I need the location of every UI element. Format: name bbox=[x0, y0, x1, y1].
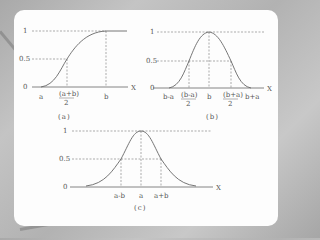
x-tick-b: b bbox=[104, 93, 109, 101]
y-tick-1: 1 bbox=[23, 27, 27, 35]
x-tick-right-mid-num: (b+a) bbox=[223, 91, 243, 99]
pi-curve bbox=[169, 32, 251, 88]
y-tick-05: 0.5 bbox=[19, 55, 30, 63]
x-tick-b: b bbox=[207, 93, 212, 101]
caption-a: (a) bbox=[58, 113, 71, 121]
y-tick-05: 0.5 bbox=[146, 57, 157, 65]
x-tick-left-mid-num: (b-a) bbox=[181, 91, 198, 99]
panel-a: 1 0.5 0 X a (a+b) 2 b (a) bbox=[19, 27, 136, 121]
x-axis-label: X bbox=[216, 184, 221, 192]
x-axis-label: X bbox=[131, 84, 136, 92]
panel-c: 1 0.5 0 X a-b a a+b (c) bbox=[59, 127, 221, 212]
membership-functions-diagram: 1 0.5 0 X a (a+b) 2 b (a) 1 0.5 0 X b-a … bbox=[0, 0, 285, 238]
x-tick-mid-den: 2 bbox=[64, 99, 68, 107]
x-tick-mid-num: (a+b) bbox=[59, 90, 79, 98]
x-tick-left-mid-den: 2 bbox=[186, 100, 190, 108]
y-tick-0: 0 bbox=[63, 183, 67, 191]
x-tick-a: a bbox=[39, 93, 43, 101]
y-tick-1: 1 bbox=[150, 28, 154, 36]
y-tick-0: 0 bbox=[23, 83, 27, 91]
y-tick-1: 1 bbox=[63, 127, 67, 135]
x-axis-label: X bbox=[267, 85, 272, 93]
caption-c: (c) bbox=[134, 204, 146, 212]
panel-b: 1 0.5 0 X b-a (b-a) 2 b (b+a) 2 b+a (b) bbox=[146, 28, 272, 121]
y-tick-0: 0 bbox=[150, 84, 154, 92]
x-tick-right-mid-den: 2 bbox=[228, 100, 232, 108]
x-tick-a: a bbox=[139, 192, 143, 200]
x-tick-b-minus-a: b-a bbox=[163, 93, 174, 101]
x-tick-b-plus-a: b+a bbox=[245, 93, 260, 101]
y-tick-05: 0.5 bbox=[59, 155, 70, 163]
x-tick-a-minus-b: a-b bbox=[114, 192, 126, 200]
x-tick-a-plus-b: a+b bbox=[154, 192, 169, 200]
caption-b: (b) bbox=[206, 113, 219, 121]
